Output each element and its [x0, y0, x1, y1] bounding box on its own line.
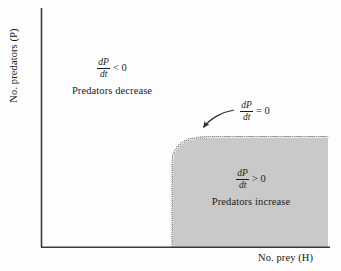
- fraction-dp-dt: dP dt: [236, 168, 249, 191]
- caption-predators-increase: Predators increase: [192, 196, 310, 207]
- equation-dp-dt-greater-than-zero: dP dt > 0: [192, 168, 310, 191]
- equation-dp-dt-equals-zero: dP dt = 0: [218, 100, 292, 123]
- fraction-numerator: dP: [236, 168, 249, 180]
- annotation-predators-increase: dP dt > 0 Predators increase: [192, 168, 310, 207]
- fraction-numerator: dP: [240, 100, 253, 112]
- fraction-denominator: dt: [243, 112, 250, 123]
- annotation-predators-decrease: dP dt < 0 Predators decrease: [53, 57, 171, 96]
- fraction-dp-dt: dP dt: [240, 100, 253, 123]
- caption-predators-decrease: Predators decrease: [53, 85, 171, 96]
- fraction-numerator: dP: [97, 57, 110, 69]
- fraction-denominator: dt: [239, 180, 246, 191]
- fraction-denominator: dt: [100, 69, 107, 80]
- fraction-dp-dt: dP dt: [97, 57, 110, 80]
- relation-operator: = 0: [256, 106, 270, 118]
- annotation-isocline: dP dt = 0: [218, 100, 292, 123]
- relation-operator: > 0: [252, 174, 266, 186]
- equation-dp-dt-less-than-zero: dP dt < 0: [53, 57, 171, 80]
- relation-operator: < 0: [113, 63, 127, 75]
- x-axis-label: No. prey (H): [258, 252, 313, 263]
- plot-canvas: [0, 0, 341, 271]
- y-axis-label: No. predators (P): [8, 6, 19, 126]
- predator-isocline-figure: No. predators (P) No. prey (H) dP dt < 0…: [0, 0, 341, 271]
